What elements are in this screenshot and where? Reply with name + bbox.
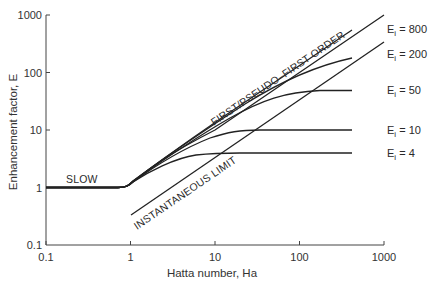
y-tick-label: 1 bbox=[36, 182, 42, 194]
annotation-first-order: FIRST/PSEUDO–FIRST ORDER bbox=[208, 28, 347, 128]
y-tick-label: 0.1 bbox=[27, 239, 42, 251]
x-tick-label: 1 bbox=[127, 251, 133, 263]
legend-ei-50: Ei = 50 bbox=[387, 84, 421, 99]
x-tick-label: 100 bbox=[290, 251, 308, 263]
y-tick-label: 1000 bbox=[18, 9, 42, 21]
y-tick-label: 10 bbox=[30, 124, 42, 136]
annotation-instantaneous-limit: INSTANTANEOUS LIMIT bbox=[131, 153, 238, 231]
legend-ei-200: Ei = 200 bbox=[387, 48, 427, 63]
legend-ei-4: Ei = 4 bbox=[387, 147, 415, 162]
y-tick-label: 100 bbox=[24, 67, 42, 79]
x-tick-labels: 0.1 1 10 100 1000 bbox=[38, 251, 396, 263]
x-tick-label: 10 bbox=[209, 251, 221, 263]
x-axis-title: Hatta number, Ha bbox=[167, 267, 258, 279]
legend: Ei = 800 Ei = 200 Ei = 50 Ei = 10 Ei = 4 bbox=[387, 23, 427, 162]
legend-ei-800: Ei = 800 bbox=[387, 23, 427, 38]
x-tick-label: 0.1 bbox=[38, 251, 53, 263]
legend-ei-10: Ei = 10 bbox=[387, 124, 421, 139]
annotation-slow: SLOW bbox=[66, 173, 98, 185]
enhancement-factor-chart: 1000 100 10 1 0.1 0.1 1 10 100 1000 Hatt… bbox=[0, 0, 434, 285]
y-axis-title: Enhancement factor, E bbox=[7, 74, 19, 191]
y-tick-labels: 1000 100 10 1 0.1 bbox=[18, 9, 42, 251]
curve-instantaneous-limit bbox=[131, 42, 384, 215]
x-tick-label: 1000 bbox=[372, 251, 396, 263]
